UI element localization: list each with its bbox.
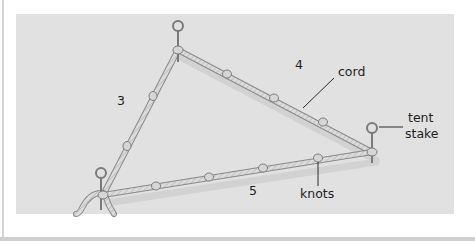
knot	[314, 154, 323, 162]
knot	[152, 182, 161, 190]
rope-triangle-diagram: 3 4 5 cord tent stake knots	[0, 0, 475, 241]
side-label-top: 4	[295, 57, 303, 72]
knot	[223, 70, 232, 78]
knots-label: knots	[300, 186, 334, 201]
side-label-left: 3	[117, 93, 125, 108]
knot	[149, 92, 157, 101]
tent-stake-label-line1: tent	[408, 110, 434, 125]
knot	[205, 173, 214, 181]
cord-label: cord	[338, 64, 365, 79]
knot	[270, 94, 279, 102]
tent-stake-label-line2: stake	[405, 126, 439, 141]
knot	[123, 142, 131, 151]
cord-leader-line	[303, 78, 334, 108]
knot	[259, 164, 268, 172]
knot	[319, 118, 328, 126]
side-label-bottom: 5	[249, 183, 257, 198]
cord-left-side	[103, 50, 178, 195]
